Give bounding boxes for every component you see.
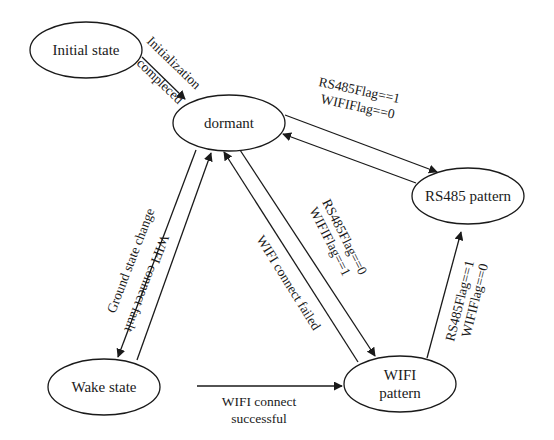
edge-wake-to-wifi: WIFI connect successful (197, 386, 342, 426)
arrow-rs485-to-dormant (283, 134, 416, 183)
node-wake-state-label: Wake state (71, 379, 136, 395)
node-wifi-pattern-label-line2: pattern (379, 385, 421, 401)
node-wake-state: Wake state (48, 359, 160, 415)
node-initial-state-label: Initial state (52, 42, 119, 58)
edge-dormant-to-wake: Ground state change (104, 150, 196, 357)
edge-wifi-to-rs485: RS485Flag==1 WIFIFlag==0 (427, 232, 491, 358)
node-dormant: dormant (173, 95, 285, 151)
node-rs485-pattern: RS485 pattern (412, 168, 524, 224)
node-wifi-pattern: WIFI pattern (344, 356, 456, 412)
node-initial-state: Initial state (30, 22, 142, 78)
node-wifi-pattern-label-line1: WIFI (384, 367, 417, 383)
edge-label-wifi-connect: WIFI connect (222, 394, 297, 409)
edge-rs485-to-dormant (283, 134, 416, 183)
arrow-wake-to-dormant (137, 153, 211, 360)
state-diagram: Initialization compleced RS485Flag==1 WI… (0, 0, 554, 440)
node-wifi-pattern-shape (344, 356, 456, 412)
edge-initial-to-dormant: Initialization compleced (134, 33, 204, 107)
edge-label-successful: successful (231, 411, 287, 426)
edge-dormant-to-rs485: RS485Flag==1 WIFIFlag==0 (285, 74, 437, 172)
node-rs485-pattern-label: RS485 pattern (425, 188, 512, 204)
edge-label-wifi-connect-failed: WIFI connect failed (253, 233, 323, 333)
node-dormant-label: dormant (204, 115, 255, 131)
